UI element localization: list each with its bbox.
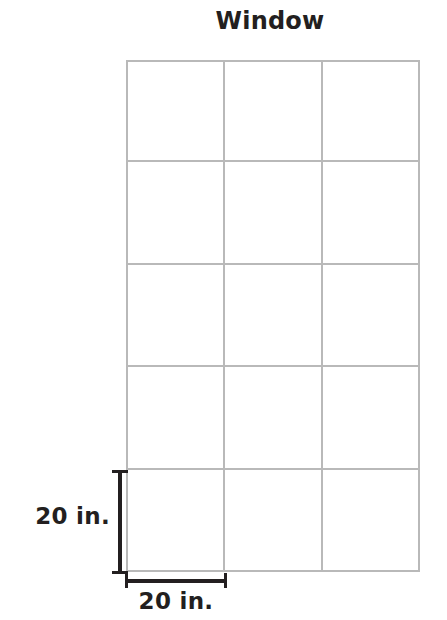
- window-pane: [323, 162, 420, 264]
- dimension-tick-right: [224, 573, 227, 588]
- window-pane: [323, 367, 420, 469]
- window-pane: [225, 367, 322, 469]
- window-pane: [126, 470, 225, 572]
- window-pane: [225, 265, 322, 367]
- window-pane: [323, 470, 420, 572]
- window-diagram: Window: [0, 0, 447, 620]
- grid-row: [126, 60, 420, 162]
- window-pane: [225, 60, 322, 162]
- dimension-shaft: [126, 579, 226, 583]
- window-pane-grid: [126, 60, 420, 572]
- window-pane: [323, 265, 420, 367]
- window-pane: [126, 162, 225, 264]
- window-pane: [126, 367, 225, 469]
- grid-row: [126, 162, 420, 264]
- width-dimension-label: 20 in.: [126, 588, 226, 614]
- width-dimension-line: [124, 573, 228, 588]
- height-dimension-label: 20 in.: [0, 503, 110, 529]
- dimension-shaft: [118, 471, 122, 573]
- page-title: Window: [150, 6, 390, 36]
- grid-row: [126, 470, 420, 572]
- window-pane: [225, 470, 322, 572]
- grid-row: [126, 367, 420, 469]
- window-pane: [225, 162, 322, 264]
- height-dimension-line: [112, 468, 128, 576]
- grid-row: [126, 265, 420, 367]
- window-pane: [323, 60, 420, 162]
- window-pane: [126, 60, 225, 162]
- window-pane: [126, 265, 225, 367]
